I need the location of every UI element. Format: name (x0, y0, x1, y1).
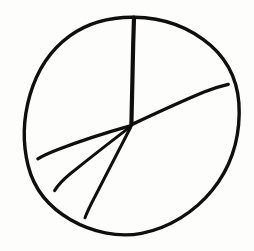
pie-chart-figure (0, 0, 254, 251)
pie-divider-lower-left-b (85, 127, 131, 218)
pie-divider-group (38, 18, 228, 218)
pie-chart-svg (0, 0, 254, 251)
pie-divider-up (131, 18, 134, 125)
pie-divider-upper-right (132, 84, 229, 124)
